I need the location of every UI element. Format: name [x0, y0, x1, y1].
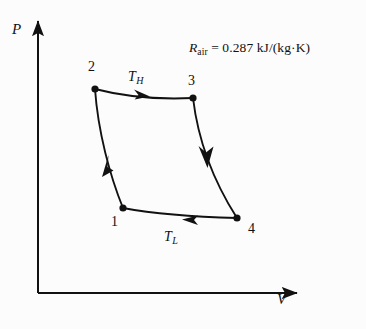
state-point-1 [119, 204, 126, 211]
cycle-paths [95, 89, 237, 218]
process-3-4-adiabat [193, 98, 237, 218]
temperature-label-high: TH [128, 70, 144, 86]
pv-diagram-figure: P V 2 3 1 4 TH TL Rair = 0.287 kJ/(kg·K) [0, 0, 366, 329]
state-point-3 [189, 94, 196, 101]
state-label-2: 2 [88, 60, 95, 74]
temp-low-subscript: L [172, 235, 178, 246]
axes-group [38, 21, 297, 293]
process-4-1-isotherm [123, 208, 237, 218]
temperature-label-low: TL [164, 230, 178, 246]
state-point-4 [233, 214, 240, 221]
temp-high-symbol: T [128, 69, 136, 84]
arrow-3-to-4-icon [199, 146, 214, 168]
gas-constant-value: = 0.287 kJ/(kg·K) [208, 40, 310, 55]
state-label-3: 3 [188, 74, 195, 88]
direction-arrowheads [102, 90, 214, 226]
temp-low-symbol: T [164, 229, 172, 244]
arrow-4-to-1-icon [182, 216, 198, 226]
state-point-2 [91, 85, 98, 92]
gas-constant-subscript: air [197, 47, 207, 57]
process-1-2-adiabat [95, 89, 123, 208]
temp-high-subscript: H [136, 75, 143, 86]
state-label-1: 1 [111, 215, 118, 229]
state-points [91, 85, 240, 221]
gas-constant-annotation: Rair = 0.287 kJ/(kg·K) [189, 41, 310, 57]
x-axis-label: V [277, 292, 286, 307]
plot-canvas [0, 0, 366, 329]
state-label-4: 4 [248, 222, 255, 236]
y-axis-label: P [12, 22, 21, 37]
